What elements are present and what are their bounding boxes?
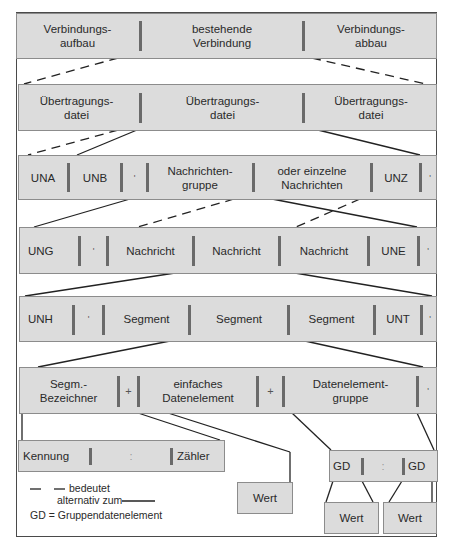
cell-segment-3: Segment [290,297,373,341]
cell-apostrophe: ' [81,228,106,273]
row-nachricht: UNH ' Segment Segment Segment UNT ' [19,296,437,342]
cell-einzelne-nachrichten: oder einzelne Nachrichten [255,156,369,199]
cell-uebertragungsdatei-3: Übertragungs- datei [306,85,436,130]
cell-nachrichtengruppe: Nachrichten- gruppe [149,156,251,199]
row-segment: Segm.- Bezeichner + einfaches Dateneleme… [19,367,437,414]
separator-bar [139,21,142,51]
cell-kennung: Kennung [23,441,87,471]
cell-verbindungsabbau: Verbindungs- abbau [306,14,436,58]
row-verbindung: Verbindungs- aufbau bestehende Verbindun… [16,13,437,59]
box-wert-left: Wert [324,502,379,534]
cell-uebertragungsdatei-1: Übertragungs- datei [19,85,134,130]
cell-wert: Wert [325,503,378,533]
box-gd-gd: GD : GD [329,450,438,482]
cell-bestehende-verbindung: bestehende Verbindung [143,14,301,58]
cell-apostrophe: ' [123,156,146,199]
box-wert-right: Wert [383,502,437,534]
cell-apostrophe: ' [420,228,436,273]
cell-gd-2: GD [408,451,436,481]
cell-colon: : [364,451,402,481]
separator-bar [302,21,305,51]
separator-bar [402,458,405,475]
cell-einfaches-datenelement: einfaches Datenelement [140,368,256,413]
cell-unb: UNB [70,156,120,199]
cell-apostrophe: ' [419,368,437,413]
cell-unz: UNZ [373,156,419,199]
legend-gd-definition: GD = Gruppendatenelement [30,509,162,522]
cell-plus: + [259,368,282,413]
cell-plus: + [120,368,137,413]
box-kennung-zaehler: Kennung : Zähler [18,440,225,472]
cell-datenelementgruppe: Datenelement- gruppe [285,368,416,413]
cell-una: UNA [19,156,67,199]
separator-bar [302,93,305,123]
cell-segment-2: Segment [191,297,287,341]
legend-alternativ: alternativ zum [57,494,122,507]
cell-apostrophe: ' [75,297,102,341]
cell-nachricht-3: Nachricht [281,228,367,273]
separator-bar [170,448,173,465]
separator-bar [139,93,142,123]
cell-gd-1: GD [333,451,361,481]
cell-nachricht-1: Nachricht [109,228,192,273]
cell-segmentbezeichner: Segm.- Bezeichner [20,368,117,413]
cell-une: UNE [370,228,417,273]
cell-unh: UNH [28,297,72,341]
cell-verbindungsaufbau: Verbindungs- aufbau [17,14,138,58]
cell-apostrophe: ' [422,156,438,199]
cell-segment-1: Segment [105,297,188,341]
cell-ung: UNG [28,228,78,273]
cell-apostrophe: ' [423,297,437,341]
box-wert: Wert [237,482,293,514]
cell-unt: UNT [376,297,420,341]
row-nachrichtengruppe: UNG ' Nachricht Nachricht Nachricht UNE … [19,227,437,274]
row-uebertragungsdatei-struktur: UNA UNB ' Nachrichten- gruppe oder einze… [18,155,437,200]
cell-colon: : [92,441,170,471]
row-uebertragungsdateien: Übertragungs- datei Übertragungs- datei … [18,84,437,131]
cell-wert: Wert [384,503,436,533]
cell-zaehler: Zähler [177,441,225,471]
cell-uebertragungsdatei-2: Übertragungs- datei [143,85,302,130]
cell-nachricht-2: Nachricht [195,228,278,273]
cell-wert: Wert [238,483,292,513]
